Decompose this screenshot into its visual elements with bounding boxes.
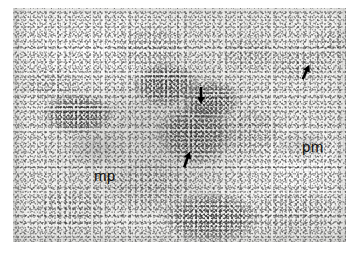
figure-root: mp pm <box>0 0 361 256</box>
label-mp: mp <box>94 168 115 183</box>
micrograph-plate: mp pm <box>13 8 346 242</box>
label-pm: pm <box>302 139 323 154</box>
emulsion-background <box>13 8 346 242</box>
